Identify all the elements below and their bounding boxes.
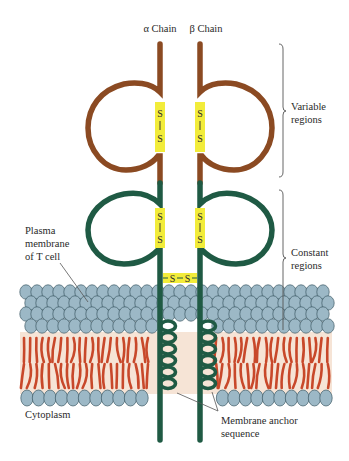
alpha-variable-disulfide: S S [155,102,165,152]
sulfur-atom: S [197,211,203,222]
beta-constant-disulfide: S S [195,208,205,248]
lipid-head [185,307,197,321]
lipid-head [47,319,59,333]
lipid-tail [228,338,229,362]
lipid-tail [85,338,86,362]
lipid-head [267,319,279,333]
lipid-head [174,307,186,321]
lipid-tail [327,338,328,362]
plasma-membrane-label-line1: Plasma [25,225,56,236]
beta-chain-label: β Chain [189,23,223,34]
lipid-tail [30,338,31,362]
beta-variable-domain [200,44,272,183]
constant-regions-label-line2: regions [291,260,322,271]
interchain-disulfide: S S [163,273,197,284]
variable-regions-label-line2: regions [291,114,322,125]
lipid-head [228,390,240,406]
membrane-anchor-label-line2: sequence [221,428,260,439]
lipid-tail [147,364,148,388]
sulfur-atom: S [157,108,163,119]
sulfur-atom: S [185,273,191,284]
lipid-tail [42,364,43,388]
lipid-head [285,390,297,406]
sulfur-atom: S [157,234,163,245]
lipid-head [308,390,320,406]
lipid-head [251,390,263,406]
lipid-head [289,319,301,333]
lipid-head [55,390,67,406]
tcr-diagram: S S S S S S S S S S α Chain β Chain Vari… [0,0,349,461]
lipid-tail [328,364,329,388]
lipid-tail [303,338,304,362]
lipid-head [234,319,246,333]
lipid-tail [266,338,267,362]
lipid-tail [98,338,99,362]
lipid-head [297,390,309,406]
lipid-head [146,319,158,333]
lipid-tail [49,364,50,388]
lipid-tail [67,338,68,362]
constant-regions-label-line1: Constant [291,247,328,258]
lipid-head [300,319,312,333]
lipid-head [113,319,125,333]
lipid-tail [235,338,237,362]
lipid-head [136,390,148,406]
lipid-head [21,390,33,406]
sulfur-atom: S [157,211,163,222]
plasma-membrane-label-line3: of T cell [25,251,60,262]
lipid-head [102,319,114,333]
alpha-constant-disulfide: S S [155,208,165,248]
sulfur-atom: S [197,133,203,144]
lipid-head [25,319,37,333]
beta-variable-disulfide: S S [195,102,205,152]
lipid-tail [91,364,92,388]
alpha-chain-label: α Chain [143,23,177,34]
lipid-head [78,390,90,406]
variable-regions-label-line1: Variable [291,101,326,112]
lipid-head [91,319,103,333]
lipid-head [320,390,332,406]
lipid-tail [111,364,112,388]
lipid-head [36,319,48,333]
lipid-head [69,319,81,333]
lipid-head [239,390,251,406]
lipid-head [223,319,235,333]
plasma-membrane [20,285,334,406]
lipid-tail [309,338,311,362]
lipid-head [274,390,286,406]
sulfur-atom: S [197,108,203,119]
lipid-head [32,390,44,406]
lipid-head [124,319,136,333]
variable-regions-bracket [279,44,286,177]
lipid-head [80,319,92,333]
lipid-head [113,390,125,406]
plasma-membrane-label-line2: membrane [25,238,70,249]
alpha-variable-domain [88,44,160,183]
lipid-head [135,319,147,333]
lipid-head [245,319,257,333]
lipid-head [322,319,334,333]
cytoplasm-label: Cytoplasm [25,409,71,420]
lipid-head [124,390,136,406]
lipid-head [44,390,56,406]
lipid-head [90,390,102,406]
lipid-head [256,319,268,333]
lipid-tail [117,364,118,388]
lipid-tail [235,364,236,388]
lipid-head [101,390,113,406]
membrane-anchor-label-line1: Membrane anchor [221,415,298,426]
lipid-tail [36,338,37,362]
lipid-tail [79,338,80,362]
lipid-head [278,319,290,333]
sulfur-atom: S [197,234,203,245]
lipid-head [311,319,323,333]
lipid-head [67,390,79,406]
sulfur-atom: S [170,273,176,284]
lipid-tail [73,364,74,388]
lipid-head [163,307,175,321]
lipid-head [58,319,70,333]
lipid-head [216,390,228,406]
lipid-head [262,390,274,406]
sulfur-atom: S [157,133,163,144]
